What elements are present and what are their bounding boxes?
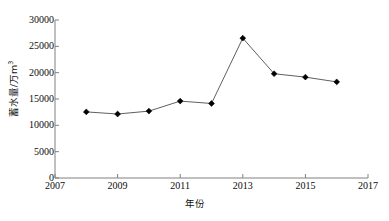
x-axis-title-text: 年份 [185,198,205,209]
line-chart: 蓄水量/万m3 050001000015000200002500030000 2… [0,0,389,221]
x-axis-tick-label: 2013 [233,181,253,191]
x-axis-tick-label: 2015 [295,181,315,191]
data-point-marker [334,79,340,85]
tick-marks-group [55,20,368,178]
axes-group [55,20,368,178]
data-point-marker [115,111,121,117]
x-axis-tick-labels: 200720092011201320152017 [0,181,389,197]
data-point-marker [177,98,183,104]
data-point-marker [209,101,215,107]
x-axis-tick-label: 2007 [45,181,65,191]
data-markers-group [83,35,339,117]
data-point-marker [146,108,152,114]
x-axis-tick-label: 2017 [358,181,378,191]
x-axis-title: 年份 [0,196,389,210]
x-axis-tick-label: 2011 [170,181,190,191]
x-axis-tick-label: 2009 [108,181,128,191]
data-point-marker [83,109,89,115]
data-point-marker [303,74,309,80]
